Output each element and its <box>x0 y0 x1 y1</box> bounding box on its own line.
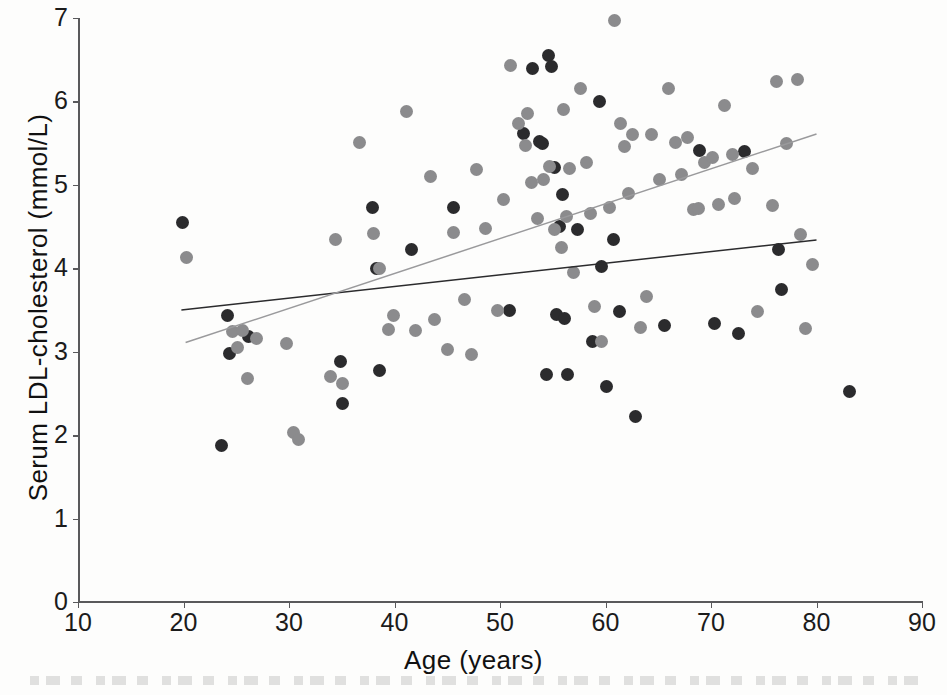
scatter-point <box>775 283 788 296</box>
plot-area <box>78 18 922 602</box>
scatter-point <box>766 199 779 212</box>
scatter-point <box>491 304 504 317</box>
scatter-point <box>336 377 349 390</box>
scatter-point <box>843 385 856 398</box>
scatter-point <box>526 62 539 75</box>
scatter-point <box>387 309 400 322</box>
scatter-point <box>780 137 793 150</box>
x-tick-label: 10 <box>43 608 113 637</box>
scatter-point <box>424 170 437 183</box>
scatter-point <box>658 319 671 332</box>
scatter-point <box>231 341 244 354</box>
y-axis-line <box>78 18 80 603</box>
scatter-point <box>180 251 193 264</box>
scatter-point <box>241 372 254 385</box>
scatter-point <box>236 324 249 337</box>
scatter-point <box>692 202 705 215</box>
x-tick-label: 30 <box>254 608 324 637</box>
scatter-point <box>465 348 478 361</box>
scatter-point <box>373 262 386 275</box>
scatter-point <box>794 228 807 241</box>
scatter-point <box>603 201 616 214</box>
scatter-point <box>400 105 413 118</box>
scatter-point <box>751 305 764 318</box>
scatter-point <box>634 321 647 334</box>
scatter-point <box>504 59 517 72</box>
scatter-point <box>614 117 627 130</box>
scatter-point <box>537 173 550 186</box>
scatter-point <box>280 337 293 350</box>
scatter-point <box>519 139 532 152</box>
scatter-point <box>324 370 337 383</box>
scatter-point <box>405 243 418 256</box>
scatter-point <box>292 433 305 446</box>
scatter-point <box>791 73 804 86</box>
scatter-point <box>772 243 785 256</box>
scatter-point <box>531 212 544 225</box>
scatter-point <box>543 160 556 173</box>
scatter-point <box>373 364 386 377</box>
y-axis-title-wrap: Serum LDL-cholesterol (mmol/L) <box>23 0 54 618</box>
scatter-point <box>561 368 574 381</box>
scatter-point <box>353 136 366 149</box>
scatter-point <box>521 107 534 120</box>
scatter-point <box>645 128 658 141</box>
y-tick-mark <box>73 435 79 436</box>
y-tick-mark <box>73 352 79 353</box>
scatter-point <box>588 300 601 313</box>
chart-figure: 01234567 102030405060708090 Age (years) … <box>0 0 947 695</box>
y-tick-mark <box>73 185 79 186</box>
scatter-point <box>447 226 460 239</box>
scatter-point <box>618 140 631 153</box>
scatter-point <box>738 145 751 158</box>
scatter-point <box>382 323 395 336</box>
x-tick-label: 40 <box>360 608 430 637</box>
scatter-point <box>732 327 745 340</box>
scatter-point <box>593 95 606 108</box>
scatter-point <box>653 173 666 186</box>
scatter-point <box>613 305 626 318</box>
scatter-point <box>545 60 558 73</box>
scatter-point <box>595 260 608 273</box>
x-tick-label: 50 <box>465 608 535 637</box>
scatter-point <box>629 410 642 423</box>
scatter-point <box>441 343 454 356</box>
scatter-point <box>556 188 569 201</box>
y-tick-mark <box>73 18 79 19</box>
scatter-point <box>706 151 719 164</box>
scatter-point <box>626 128 639 141</box>
scatter-point <box>470 163 483 176</box>
scatter-point <box>447 201 460 214</box>
scatter-point <box>608 14 621 27</box>
scatter-point <box>746 162 759 175</box>
scatter-point <box>567 266 580 279</box>
scatter-point <box>497 193 510 206</box>
scatter-point <box>770 75 783 88</box>
y-tick-mark <box>73 101 79 102</box>
scatter-point <box>540 368 553 381</box>
scatter-point <box>176 216 189 229</box>
scatter-point <box>366 201 379 214</box>
scatter-point <box>558 312 571 325</box>
page-bleed-artifact <box>30 676 920 685</box>
scatter-point <box>557 103 570 116</box>
scatter-point <box>479 222 492 235</box>
scatter-point <box>555 241 568 254</box>
scatter-point <box>215 439 228 452</box>
x-tick-label: 20 <box>149 608 219 637</box>
scatter-point <box>584 207 597 220</box>
scatter-point <box>560 210 573 223</box>
scatter-point <box>221 309 234 322</box>
scatter-point <box>718 99 731 112</box>
scatter-point <box>409 324 422 337</box>
scatter-point <box>712 198 725 211</box>
x-tick-label: 90 <box>887 608 947 637</box>
x-tick-label: 70 <box>676 608 746 637</box>
scatter-point <box>600 380 613 393</box>
scatter-point <box>640 290 653 303</box>
scatter-point <box>806 258 819 271</box>
scatter-point <box>574 82 587 95</box>
scatter-point <box>548 223 561 236</box>
scatter-point <box>728 192 741 205</box>
scatter-point <box>536 137 549 150</box>
